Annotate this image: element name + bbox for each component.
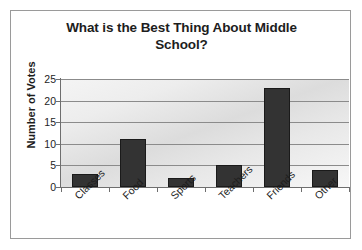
y-axis-tick-label: 10 xyxy=(37,138,56,150)
y-axis-tick-mark xyxy=(56,101,60,102)
y-axis-title: Number of Votes xyxy=(25,50,37,160)
y-axis-tick-mark xyxy=(56,144,60,145)
x-axis-tick-mark xyxy=(349,188,350,192)
y-axis-tick-mark xyxy=(56,79,60,80)
y-axis-tick-label: 20 xyxy=(37,95,56,107)
gridline xyxy=(61,122,349,123)
y-axis-tick-mark xyxy=(56,165,60,166)
plot-area xyxy=(61,79,349,187)
x-axis-tick-mark xyxy=(205,188,206,192)
gridline xyxy=(61,101,349,102)
chart-title-line-1: What is the Best Thing About Middle xyxy=(19,19,344,36)
y-axis-tick-mark xyxy=(56,187,60,188)
chart-frame: What is the Best Thing About Middle Scho… xyxy=(10,10,351,239)
x-axis-tick-mark xyxy=(61,188,62,192)
chart-title: What is the Best Thing About Middle Scho… xyxy=(19,19,344,53)
x-axis-tick-mark xyxy=(253,188,254,192)
gridline xyxy=(61,144,349,145)
x-axis-tick-mark xyxy=(301,188,302,192)
y-axis-tick-label: 15 xyxy=(37,116,56,128)
y-axis-tick-mark xyxy=(56,122,60,123)
gridline xyxy=(61,165,349,166)
plot-area-wrapper xyxy=(61,79,349,187)
y-axis-tick-label: 0 xyxy=(37,181,56,193)
x-axis-tick-mark xyxy=(109,188,110,192)
y-axis-tick-label: 5 xyxy=(37,159,56,171)
x-axis-tick-mark xyxy=(157,188,158,192)
chart-title-line-2: School? xyxy=(19,36,344,53)
gridline xyxy=(61,79,349,80)
y-axis-tick-label: 25 xyxy=(37,73,56,85)
